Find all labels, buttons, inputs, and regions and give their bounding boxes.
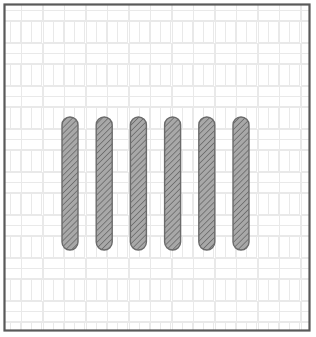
figure-canvas (0, 0, 316, 337)
masonry-background (5, 5, 310, 331)
vertical-hatched-bar (62, 117, 78, 250)
vertical-hatched-bar (130, 117, 146, 250)
vertical-hatched-bar (199, 117, 215, 250)
vertical-hatched-bar (96, 117, 112, 250)
vertical-hatched-bar (233, 117, 249, 250)
vertical-hatched-bar (165, 117, 181, 250)
figure-root (0, 0, 316, 337)
